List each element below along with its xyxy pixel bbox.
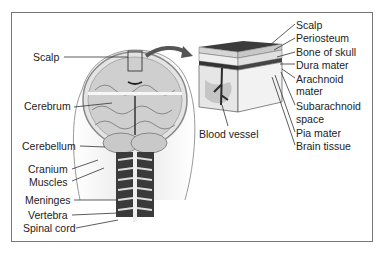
label-meninges: Meninges <box>25 194 71 206</box>
inset-label-dura-mater: Dura mater <box>296 59 349 71</box>
inset-label-bone-of-skull: Bone of skull <box>296 46 356 58</box>
inset-label-subarachnoid: Subarachnoid <box>296 100 361 112</box>
label-muscles: Muscles <box>29 176 68 188</box>
inset-label-brain-tissue: Brain tissue <box>296 140 351 152</box>
inset-label-arachnoid-mater: mater <box>296 85 323 97</box>
inset-label-subarachnoid-space: space <box>296 113 324 125</box>
label-blood-vessel: Blood vessel <box>199 128 259 140</box>
label-cerebrum: Cerebrum <box>24 100 71 112</box>
meninges-inset-block <box>199 41 282 112</box>
label-spinal-cord: Spinal cord <box>23 222 76 234</box>
inset-label-scalp: Scalp <box>296 19 322 31</box>
label-cerebellum: Cerebellum <box>22 140 76 152</box>
inset-label-pia-mater: Pia mater <box>296 127 341 139</box>
inset-label-arachnoid: Arachnoid <box>296 73 343 85</box>
label-cranium: Cranium <box>28 163 68 175</box>
head-illustration <box>73 50 194 222</box>
inset-label-periosteum: Periosteum <box>296 32 349 44</box>
label-vertebra: Vertebra <box>28 209 68 221</box>
label-scalp: Scalp <box>33 51 59 63</box>
